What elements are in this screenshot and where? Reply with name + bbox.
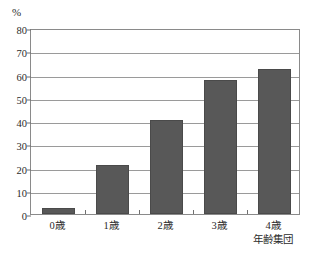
y-axis-tick-mark — [27, 123, 31, 124]
y-axis-unit-label: % — [12, 6, 21, 18]
x-axis-tick-mark — [85, 210, 86, 214]
x-axis-tick-label: 0歳 — [49, 220, 64, 232]
x-axis-tick-label: 4歳 — [265, 220, 280, 232]
y-axis-tick-label: 30 — [17, 141, 28, 152]
y-axis-tick-label: 80 — [17, 25, 28, 36]
y-axis-tick-label: 70 — [17, 48, 28, 59]
bar — [258, 69, 291, 214]
bar-chart: % 01020304050607080 年齢集団 0歳1歳2歳3歳4歳 — [0, 0, 316, 261]
y-axis-tick-label: 20 — [17, 164, 28, 175]
y-axis-tick-mark — [27, 30, 31, 31]
y-axis-tick-mark — [27, 146, 31, 147]
y-axis-tick-mark — [27, 76, 31, 77]
y-axis-tick-label: 10 — [17, 187, 28, 198]
bar — [150, 120, 183, 214]
y-axis-tick-mark — [27, 99, 31, 100]
y-axis-tick-mark — [27, 216, 31, 217]
x-axis-tick-mark — [193, 210, 194, 214]
x-axis-tick-label: 2歳 — [157, 220, 172, 232]
y-axis-tick-label: 40 — [17, 118, 28, 129]
x-axis-tick-mark — [247, 210, 248, 214]
y-axis-tick-label: 50 — [17, 94, 28, 105]
x-axis-tick-label: 1歳 — [103, 220, 118, 232]
gridline — [31, 53, 299, 54]
bar — [96, 165, 129, 214]
y-axis-tick-mark — [27, 53, 31, 54]
x-axis-tick-label: 3歳 — [211, 220, 226, 232]
y-axis-tick-mark — [27, 169, 31, 170]
y-axis-tick-mark — [27, 192, 31, 193]
bar — [42, 208, 75, 214]
x-axis-tick-mark — [139, 210, 140, 214]
plot-area: 01020304050607080 — [30, 29, 300, 215]
x-axis-title: 年齢集団 — [253, 234, 293, 246]
y-axis-tick-label: 60 — [17, 71, 28, 82]
bar — [204, 80, 237, 214]
